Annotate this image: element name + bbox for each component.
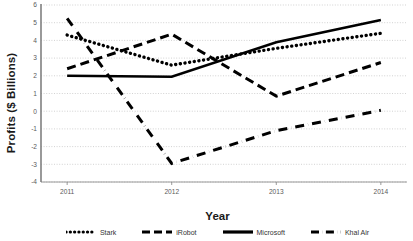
- legend-item-khal-air[interactable]: Khal Air: [311, 228, 369, 236]
- legend-item-irobot[interactable]: iRobot: [142, 228, 196, 236]
- legend-label: iRobot: [176, 229, 196, 236]
- x-tick-marks: [67, 182, 381, 185]
- legend-label: Khal Air: [345, 229, 369, 236]
- legend-item-stark[interactable]: Stark: [66, 228, 116, 236]
- y-axis-label-text: Profits ($ Billions): [5, 52, 17, 152]
- x-tick-label: 2014: [374, 188, 389, 195]
- chart-legend: StarkiRobotMicrosoftKhal Air: [22, 224, 413, 240]
- y-tick-label: 0: [33, 108, 37, 115]
- y-tick-label: 3: [33, 54, 37, 61]
- y-tick-label: -4: [31, 178, 37, 185]
- x-tick-labels: 2011201220132014: [60, 188, 388, 195]
- chart-canvas: 6543210-1-2-3-4 2011201220132014: [22, 0, 413, 210]
- y-axis-label: Profits ($ Billions): [0, 0, 22, 205]
- y-tick-label: -3: [31, 161, 37, 168]
- y-tick-label: 6: [33, 1, 37, 8]
- legend-swatch-dotted: [66, 228, 96, 236]
- legend-swatch-dash-dot: [311, 228, 341, 236]
- legend-swatch-dashed: [142, 228, 172, 236]
- data-series-group: [67, 18, 381, 163]
- y-tick-label: 1: [33, 90, 37, 97]
- y-tick-labels: 6543210-1-2-3-4: [31, 1, 37, 185]
- y-tick-label: -1: [31, 125, 37, 132]
- legend-swatch-solid: [223, 228, 253, 236]
- profits-line-chart: Profits ($ Billions) 6543210-1-2-3-4 201…: [0, 0, 413, 241]
- y-tick-label: -2: [31, 143, 37, 150]
- y-tick-label: 5: [33, 19, 37, 26]
- y-tick-label: 2: [33, 72, 37, 79]
- plot-area: 6543210-1-2-3-4 2011201220132014: [22, 0, 413, 210]
- x-axis-label-text: Year: [205, 210, 229, 222]
- legend-item-microsoft[interactable]: Microsoft: [223, 228, 285, 236]
- grid-lines: [41, 5, 407, 182]
- x-axis-label: Year: [22, 206, 413, 224]
- x-tick-label: 2013: [269, 188, 284, 195]
- y-tick-label: 4: [33, 37, 37, 44]
- x-tick-label: 2012: [164, 188, 179, 195]
- series-line-microsoft: [67, 20, 381, 77]
- legend-label: Microsoft: [257, 229, 285, 236]
- x-tick-label: 2011: [60, 188, 75, 195]
- legend-label: Stark: [100, 229, 116, 236]
- axis-lines: [41, 4, 407, 182]
- series-line-irobot: [67, 34, 381, 96]
